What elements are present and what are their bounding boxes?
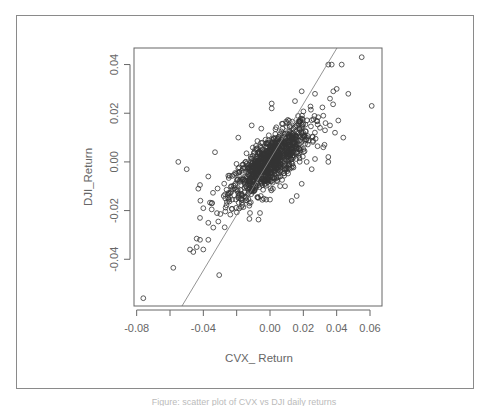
data-point	[336, 118, 341, 123]
data-point	[320, 105, 325, 110]
y-tick-label: -0.04	[108, 247, 120, 272]
data-point	[211, 225, 216, 230]
data-point	[228, 212, 233, 217]
data-point	[259, 126, 264, 131]
data-point	[201, 206, 206, 211]
data-point	[236, 135, 241, 140]
data-point	[184, 167, 189, 172]
y-axis: 0.040.020.00-0.02-0.04	[108, 54, 130, 272]
figure-caption: Figure: scatter plot of CVX vs DJI daily…	[0, 397, 488, 406]
data-point	[230, 206, 235, 211]
data-point	[244, 151, 249, 156]
data-point	[206, 174, 211, 179]
data-point	[313, 130, 318, 135]
data-point	[339, 62, 344, 67]
x-tick-label: 0.06	[359, 322, 380, 334]
data-point	[198, 216, 203, 221]
data-point	[318, 125, 323, 130]
data-point	[326, 155, 331, 160]
x-axis-title: CVX_ Return	[225, 352, 293, 364]
data-point	[249, 123, 254, 128]
data-point	[266, 133, 271, 138]
data-point	[323, 121, 328, 126]
data-point	[256, 217, 261, 222]
x-tick-label: 0.04	[326, 322, 347, 334]
data-point	[191, 250, 196, 255]
data-point	[334, 87, 339, 92]
data-point	[331, 89, 336, 94]
data-point	[198, 198, 203, 203]
data-point	[315, 144, 320, 149]
y-axis-title: DJI_Return	[82, 148, 94, 206]
data-point	[211, 190, 216, 195]
data-point	[309, 167, 314, 172]
x-tick-label: -0.08	[124, 322, 149, 334]
data-point	[222, 181, 227, 186]
data-point	[216, 219, 221, 224]
data-point	[278, 184, 283, 189]
data-point	[213, 150, 218, 155]
data-point	[206, 220, 211, 225]
x-axis: -0.08-0.040.000.020.040.06	[124, 310, 381, 334]
data-point	[269, 106, 274, 111]
x-tick-label: 0.00	[259, 322, 280, 334]
data-point	[269, 101, 274, 106]
data-point	[369, 104, 374, 109]
data-point	[247, 217, 252, 222]
data-point	[206, 237, 211, 242]
data-point	[299, 181, 304, 186]
data-points	[141, 55, 374, 301]
data-point	[217, 273, 222, 278]
data-point	[215, 186, 220, 191]
data-point	[331, 102, 336, 107]
data-point	[304, 160, 309, 165]
data-point	[294, 157, 299, 162]
y-tick-label: 0.00	[108, 151, 120, 172]
data-point	[308, 104, 313, 109]
scatter-plot: -0.08-0.040.000.020.040.06 0.040.020.00-…	[0, 0, 488, 406]
data-point	[333, 130, 338, 135]
data-point	[329, 62, 334, 67]
data-point	[201, 247, 206, 252]
data-point	[283, 184, 288, 189]
data-point	[309, 124, 314, 129]
data-point	[321, 113, 326, 118]
data-point	[234, 162, 239, 167]
data-point	[188, 247, 193, 252]
data-point	[141, 296, 146, 301]
x-tick-label: 0.02	[293, 322, 314, 334]
data-point	[289, 199, 294, 204]
data-point	[171, 265, 176, 270]
y-tick-label: 0.02	[108, 103, 120, 124]
y-tick-label: 0.04	[108, 54, 120, 75]
x-tick-label: -0.04	[191, 322, 216, 334]
data-point	[326, 160, 331, 165]
data-point	[176, 160, 181, 165]
data-point	[328, 96, 333, 101]
data-point	[294, 194, 299, 199]
data-point	[328, 123, 333, 128]
data-point	[299, 89, 304, 94]
data-point	[293, 99, 298, 104]
data-point	[248, 211, 253, 216]
data-point	[346, 91, 351, 96]
data-point	[323, 128, 328, 133]
data-point	[301, 109, 306, 114]
data-point	[359, 55, 364, 60]
data-point	[258, 211, 263, 216]
data-point	[313, 91, 318, 96]
y-tick-label: -0.02	[108, 198, 120, 223]
data-point	[313, 157, 318, 162]
data-point	[218, 212, 223, 217]
data-point	[222, 225, 227, 230]
data-point	[215, 211, 220, 216]
regression-line	[182, 48, 337, 306]
data-point	[209, 207, 214, 212]
data-point	[341, 135, 346, 140]
data-point	[194, 245, 199, 250]
